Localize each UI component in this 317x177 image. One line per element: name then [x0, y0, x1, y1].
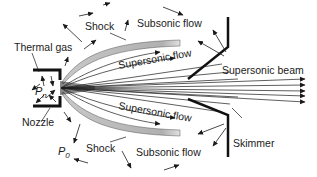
beam-core	[60, 81, 95, 95]
label-shock-top: Shock	[85, 20, 115, 32]
label-supersonic-beam: Supersonic beam	[222, 64, 304, 76]
background-arrows-bottom	[64, 112, 179, 170]
label-subsonic-flow-bottom: Subsonic flow	[136, 146, 201, 158]
label-supersonic-flow-bottom: Supersonic flow	[118, 99, 193, 124]
label-shock-bottom: Shock	[86, 142, 116, 154]
skimmer	[188, 17, 228, 157]
expansion-diagram: Thermal gas Shock Subsonic flow Superson…	[0, 0, 317, 177]
label-skimmer: Skimmer	[233, 137, 275, 149]
label-nozzle: Nozzle	[22, 116, 54, 128]
label-pressure-background: P0	[58, 145, 70, 160]
skimmer-reflection-arrows	[198, 30, 226, 146]
label-thermal-gas: Thermal gas	[14, 41, 72, 53]
label-subsonic-flow-top: Subsonic flow	[137, 17, 202, 29]
